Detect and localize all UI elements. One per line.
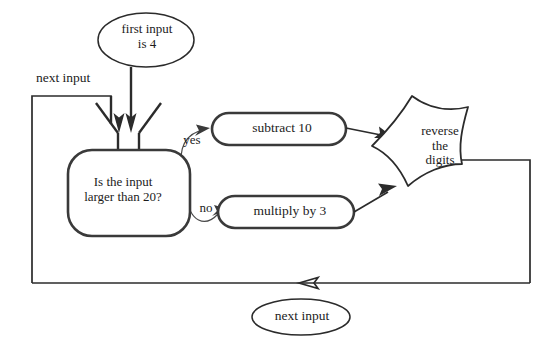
arrowhead-yes <box>195 125 210 137</box>
next-input-ellipse-shape <box>252 299 350 335</box>
funnel-left-diagonal <box>96 103 118 133</box>
edge-multiply-to-reverse <box>354 192 388 212</box>
decision-box-shape <box>68 150 190 236</box>
multiply-box-shape <box>218 196 354 228</box>
funnel-right-diagonal <box>139 103 161 133</box>
arrowhead-multiply-to-reverse <box>378 184 397 197</box>
flowchart-canvas: first input is 4 next input Is the input… <box>0 0 558 349</box>
flowchart-graphics <box>0 0 558 349</box>
subtract-box-shape <box>212 113 346 145</box>
reverse-digits-shape <box>372 96 468 186</box>
edge-reverse-to-decision-right <box>451 160 530 283</box>
first-input-ellipse-shape <box>98 13 194 67</box>
